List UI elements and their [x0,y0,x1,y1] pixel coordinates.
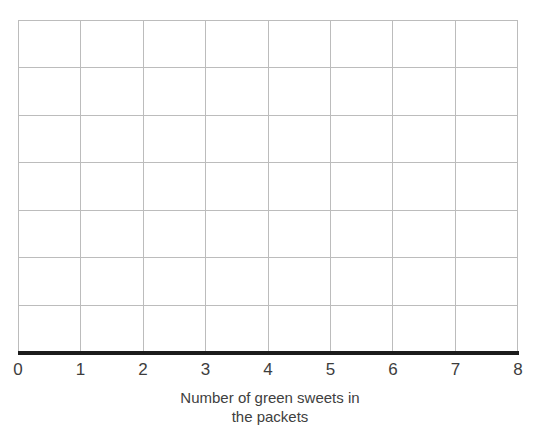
x-tick-label-1: 1 [61,359,101,381]
grid-cell [206,68,268,115]
x-tick-label-3: 3 [186,359,226,381]
grid-cell [206,211,268,258]
grid-cell [393,163,455,210]
grid-cell [81,116,143,163]
grid-cell [393,68,455,115]
x-axis-title-line-1: Number of green sweets in [0,388,540,407]
grid-cell [456,163,518,210]
grid-cell [81,306,143,353]
x-tick-label-0: 0 [0,359,38,381]
grid-cell [19,163,81,210]
x-tick-label-5: 5 [311,359,351,381]
grid-cell [331,163,393,210]
grid-cell [81,258,143,305]
grid-cell [81,21,143,68]
grid-cell [144,21,206,68]
grid-cell [206,306,268,353]
x-tick-label-6: 6 [373,359,413,381]
x-tick-label-7: 7 [436,359,476,381]
grid-cell [206,163,268,210]
grid-cell [144,306,206,353]
grid-cell [393,21,455,68]
grid-cell [144,211,206,258]
grid-cell [144,258,206,305]
grid-cell [331,211,393,258]
grid-cell [81,211,143,258]
grid-cell [393,211,455,258]
grid-cell [269,116,331,163]
grid-cell [19,211,81,258]
grid-cell [331,116,393,163]
grid-cell [269,211,331,258]
grid-cell [144,116,206,163]
grid-cell [269,306,331,353]
grid-cell [19,306,81,353]
grid-cell [456,258,518,305]
grid-cell [206,116,268,163]
grid-cell [331,68,393,115]
grid-cell [393,116,455,163]
grid-cell [331,258,393,305]
grid-cell [19,68,81,115]
x-axis-title-line-2: the packets [0,407,540,426]
grid-cell [331,21,393,68]
x-tick-label-8: 8 [498,359,538,381]
grid-cell [269,258,331,305]
x-tick-label-4: 4 [248,359,288,381]
grid-cell [269,21,331,68]
grid-cell [144,163,206,210]
grid-cell [19,21,81,68]
grid-cell [393,306,455,353]
x-axis-tick-labels: 0 1 2 3 4 5 6 7 8 [18,359,518,385]
x-axis-title: Number of green sweets in the packets [0,388,540,426]
x-tick-label-2: 2 [123,359,163,381]
grid-cell [456,116,518,163]
x-axis-line [18,351,519,355]
grid-cell [206,21,268,68]
grid-cell [19,258,81,305]
grid-cell [206,258,268,305]
grid-cell [144,68,206,115]
grid-cell [19,116,81,163]
grid-cell [81,68,143,115]
grid-cell [331,306,393,353]
grid-cell [456,211,518,258]
grid-cell [456,21,518,68]
grid-cell [269,163,331,210]
grid-cell [456,68,518,115]
grid-cell [393,258,455,305]
plot-grid [18,20,518,353]
grid-cell [269,68,331,115]
grid-cell [456,306,518,353]
bar-chart-blank-grid: 0 1 2 3 4 5 6 7 8 Number of green sweets… [0,0,540,435]
grid-cell [81,163,143,210]
